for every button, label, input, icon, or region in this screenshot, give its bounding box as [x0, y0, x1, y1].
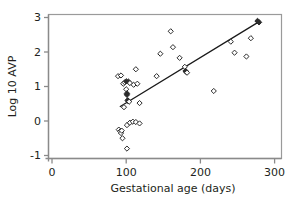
y-tick-label-0: 0 [34, 115, 41, 128]
x-tick-label-0: 0 [49, 166, 56, 179]
plot-frame [49, 15, 282, 159]
data-point [158, 51, 163, 56]
y-tick-label-2: 2 [34, 46, 41, 59]
series-0-points [115, 18, 261, 151]
data-point [244, 54, 249, 59]
data-point [211, 88, 216, 93]
data-point [137, 100, 142, 105]
data-point [168, 29, 173, 34]
scatter-plot-figure: -101230100200300Gestational age (days)Lo… [0, 0, 292, 205]
x-tick-label-300: 300 [264, 166, 285, 179]
data-point [120, 136, 125, 141]
x-tick-label-200: 200 [190, 166, 211, 179]
data-point [154, 74, 159, 79]
y-tick-label-1: 1 [34, 80, 41, 93]
data-point [232, 50, 237, 55]
y-tick-label-3: 3 [34, 11, 41, 24]
x-tick-label-100: 100 [116, 166, 137, 179]
y-tick-label--1: -1 [30, 149, 41, 162]
data-point [177, 55, 182, 60]
regression-line [120, 23, 257, 107]
data-point [133, 67, 138, 72]
data-point [124, 146, 129, 151]
y-axis-title: Log 10 AVP [6, 55, 19, 117]
data-point [170, 45, 175, 50]
x-axis-title: Gestational age (days) [111, 182, 236, 195]
data-point [248, 36, 253, 41]
chart-canvas: -101230100200300Gestational age (days)Lo… [0, 0, 292, 205]
